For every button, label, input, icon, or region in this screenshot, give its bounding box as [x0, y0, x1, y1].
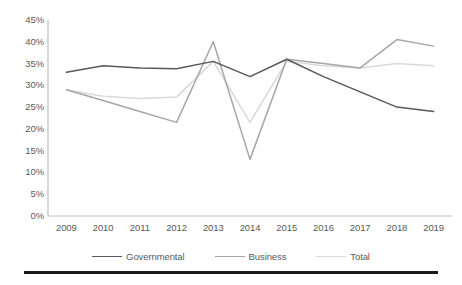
plot-area: 0%5%10%15%20%25%30%35%40%45% 20092010201… [0, 0, 462, 245]
line-chart: 0%5%10%15%20%25%30%35%40%45% 20092010201… [0, 0, 462, 285]
bottom-divider [24, 271, 438, 274]
x-axis-tick-label: 2011 [130, 222, 150, 233]
x-axis-tick-label: 2009 [56, 222, 77, 233]
legend-line-icon [215, 256, 245, 257]
x-axis-tick-label: 2016 [313, 222, 334, 233]
legend-line-icon [92, 256, 122, 257]
x-axis-tick-label: 2019 [423, 222, 444, 233]
x-axis-tick-label: 2015 [276, 222, 297, 233]
x-axis-tick-label: 2010 [93, 222, 114, 233]
legend-label: Governmental [126, 251, 184, 262]
x-axis-tick-label: 2013 [203, 222, 224, 233]
legend-line-icon [316, 256, 346, 257]
legend-label: Total [350, 251, 370, 262]
legend-item-business[interactable]: Business [215, 251, 287, 262]
chart-legend: GovernmentalBusinessTotal [0, 246, 462, 266]
x-axis-tick-label: 2012 [166, 222, 187, 233]
x-axis-tick-label: 2018 [387, 222, 408, 233]
legend-item-governmental[interactable]: Governmental [92, 251, 184, 262]
legend-item-total[interactable]: Total [316, 251, 370, 262]
legend-label: Business [249, 251, 287, 262]
x-axis-tick-labels: 2009201020112012201320142015201620172018… [0, 0, 462, 245]
x-axis-tick-label: 2014 [240, 222, 261, 233]
x-axis-tick-label: 2017 [350, 222, 371, 233]
